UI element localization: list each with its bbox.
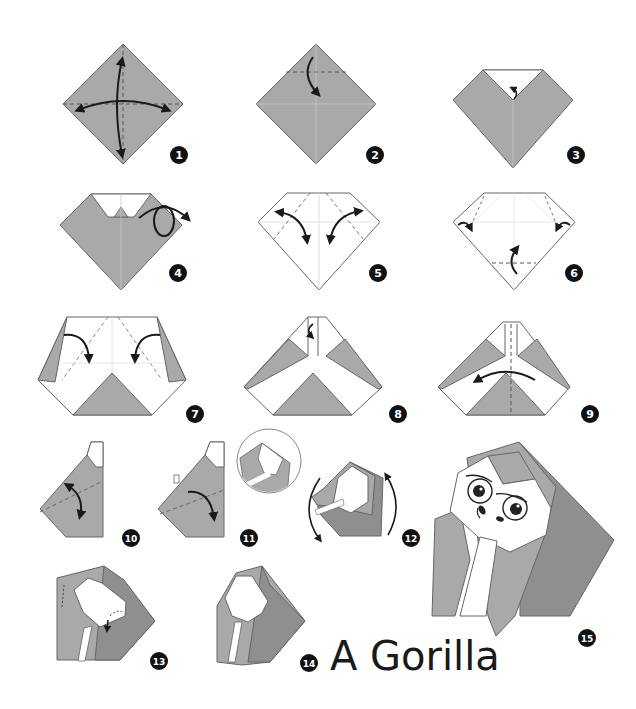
svg-text:3: 3: [572, 149, 580, 162]
step-badge-15: 15: [578, 629, 596, 647]
step-badge-14: 14: [300, 654, 318, 672]
step-5-diagram: [258, 193, 380, 290]
step-badge-10: 10: [122, 529, 140, 547]
step-6-diagram: [453, 193, 575, 290]
svg-text:1: 1: [175, 149, 183, 162]
step-badge-5: 5: [369, 264, 387, 282]
step-badge-11: 11: [240, 529, 258, 547]
step-12-detail-inset: [237, 429, 301, 495]
step-10-diagram: [40, 442, 103, 537]
svg-text:13: 13: [153, 657, 166, 667]
svg-text:14: 14: [303, 659, 316, 669]
step-2-diagram: [256, 44, 376, 164]
step-badge-1: 1: [170, 146, 188, 164]
svg-text:4: 4: [174, 267, 182, 280]
step-badge-12: 12: [402, 529, 420, 547]
step-8-diagram: [244, 317, 382, 415]
step-9-diagram: [438, 322, 570, 415]
step-4-diagram: [60, 194, 188, 290]
step-3-diagram: [453, 70, 573, 168]
origami-diagram: 1 2 3 4 5 6 7 8 9 10 11 12 13 14 15: [0, 0, 636, 709]
svg-text:9: 9: [586, 408, 594, 421]
step-badge-13: 13: [150, 652, 168, 670]
step-12-diagram: [309, 462, 396, 540]
step-11-diagram: [158, 442, 224, 537]
step-badge-2: 2: [366, 146, 384, 164]
svg-text:5: 5: [374, 267, 382, 280]
step-badge-9: 9: [581, 405, 599, 423]
step-15-gorilla: [432, 442, 614, 636]
step-badge-4: 4: [169, 264, 187, 282]
svg-text:2: 2: [371, 149, 379, 162]
svg-text:11: 11: [243, 534, 256, 544]
svg-text:12: 12: [405, 534, 418, 544]
step-badge-3: 3: [567, 146, 585, 164]
step-7-diagram: [38, 317, 186, 415]
svg-text:10: 10: [125, 534, 138, 544]
svg-text:8: 8: [394, 408, 402, 421]
step-14-diagram: [217, 566, 305, 665]
svg-text:7: 7: [191, 408, 199, 421]
step-badge-8: 8: [389, 405, 407, 423]
page-title: A Gorilla: [330, 636, 500, 676]
svg-text:6: 6: [570, 267, 578, 280]
step-badge-7: 7: [186, 405, 204, 423]
step-badge-6: 6: [565, 264, 583, 282]
step-13-diagram: [57, 566, 155, 661]
step-1-diagram: [63, 44, 183, 164]
svg-text:15: 15: [581, 634, 594, 644]
